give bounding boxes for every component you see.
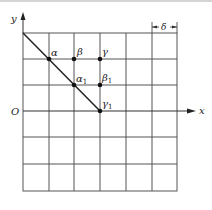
grid-diagram: y x O δ α β γ α1 β1 γ1 bbox=[0, 0, 212, 210]
label-gamma: γ bbox=[102, 46, 108, 57]
y-arrow-icon bbox=[21, 12, 26, 20]
point-beta bbox=[72, 57, 77, 62]
label-alpha1: α1 bbox=[76, 73, 87, 86]
label-alpha: α bbox=[51, 47, 58, 58]
point-beta1 bbox=[98, 83, 103, 88]
y-axis: y bbox=[10, 12, 26, 33]
x-axis-label: x bbox=[199, 105, 205, 116]
label-gamma1: γ1 bbox=[102, 98, 112, 111]
origin-label: O bbox=[11, 106, 19, 117]
point-gamma1 bbox=[98, 109, 103, 114]
point-gamma bbox=[98, 57, 103, 62]
delta-label: δ bbox=[161, 22, 166, 32]
diagonal-line bbox=[23, 33, 100, 111]
x-arrow-icon bbox=[187, 109, 196, 114]
y-axis-label: y bbox=[10, 13, 17, 24]
label-beta1: β1 bbox=[101, 72, 112, 85]
label-beta: β bbox=[76, 46, 83, 57]
